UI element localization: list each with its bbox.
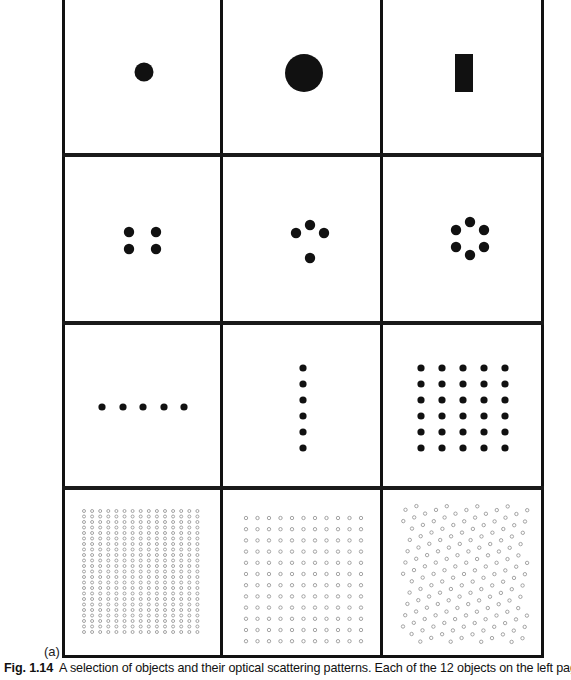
cell-horizontal-row xyxy=(98,403,187,410)
caption-label: Fig. 1.14 xyxy=(4,661,53,675)
figure-objects xyxy=(62,0,544,658)
cell-hexagonal-lattice xyxy=(401,504,529,643)
cell-small-circle xyxy=(135,63,154,82)
panel-label: (a) xyxy=(44,644,60,659)
cell-sparse-square-lattice xyxy=(244,516,362,643)
cell-rectangle xyxy=(455,54,473,92)
cell-dot-lattice xyxy=(417,364,508,451)
cell-four-dots-square xyxy=(124,227,161,254)
figure-caption: Fig. 1.14 A selection of objects and the… xyxy=(4,661,571,675)
cell-six-dots-hexagon xyxy=(451,217,489,260)
caption-text: A selection of objects and their optical… xyxy=(59,661,571,675)
cell-dense-square-lattice xyxy=(83,510,199,634)
cell-vertical-column xyxy=(299,364,306,451)
cell-four-dots-arc xyxy=(291,220,329,263)
figure-grid xyxy=(62,0,544,658)
cell-large-circle xyxy=(285,54,323,92)
